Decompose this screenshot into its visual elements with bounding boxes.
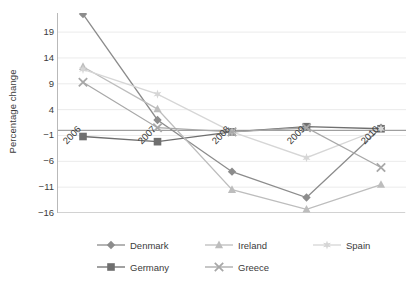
- marker-diamond: [107, 241, 115, 249]
- y-tick-label: 19: [26, 27, 54, 37]
- legend-label: Denmark: [130, 240, 169, 251]
- y-axis-title: Percentage change: [2, 0, 22, 222]
- y-axis-title-text: Percentage change: [7, 69, 18, 153]
- marker-square: [107, 263, 115, 271]
- marker-cross: [79, 78, 87, 86]
- y-tick-label: −6: [26, 156, 54, 166]
- y-tick-label: −11: [26, 182, 54, 192]
- marker-cross: [377, 163, 385, 171]
- marker-diamond: [228, 167, 236, 175]
- legend-swatch-square-icon: [96, 260, 126, 274]
- legend-marker-svg: [204, 238, 234, 252]
- legend-item-ireland[interactable]: Ireland: [204, 238, 267, 252]
- series-line: [83, 69, 381, 157]
- y-tick-label: −16: [26, 208, 54, 218]
- y-tick-label: 14: [26, 53, 54, 63]
- legend-swatch-triangle-icon: [204, 238, 234, 252]
- chart-legend: DenmarkIrelandSpainGermanyGreece: [96, 238, 396, 282]
- y-tick-label: −1: [26, 130, 54, 140]
- marker-triangle: [153, 105, 161, 113]
- legend-item-greece[interactable]: Greece: [204, 260, 269, 274]
- legend-label: Germany: [130, 262, 169, 273]
- legend-swatch-star-icon: [312, 238, 342, 252]
- legend-label: Spain: [346, 240, 370, 251]
- legend-swatch-cross-icon: [204, 260, 234, 274]
- y-tick-label: 9: [26, 79, 54, 89]
- y-axis-tick-labels: 191494−1−6−11−16: [20, 0, 54, 288]
- series-spain: [79, 65, 385, 163]
- legend-marker-svg: [96, 238, 126, 252]
- marker-diamond: [153, 116, 161, 124]
- series-ireland: [79, 62, 385, 212]
- plot-svg: [58, 13, 406, 213]
- legend-item-denmark[interactable]: Denmark: [96, 238, 169, 252]
- legend-label: Ireland: [238, 240, 267, 251]
- marker-square: [79, 133, 87, 141]
- marker-star: [154, 90, 162, 99]
- line-chart: Percentage change 191494−1−6−11−16 20062…: [0, 0, 413, 288]
- series-line: [83, 82, 381, 167]
- legend-marker-svg: [312, 238, 342, 252]
- marker-square: [154, 138, 162, 146]
- legend-marker-svg: [96, 260, 126, 274]
- legend-label: Greece: [238, 262, 269, 273]
- legend-item-spain[interactable]: Spain: [312, 238, 370, 252]
- marker-triangle: [377, 180, 385, 188]
- legend-item-germany[interactable]: Germany: [96, 260, 169, 274]
- legend-marker-svg: [204, 260, 234, 274]
- y-tick-label: 4: [26, 105, 54, 115]
- plot-area: [57, 13, 405, 213]
- legend-swatch-diamond-icon: [96, 238, 126, 252]
- series-greece: [79, 78, 385, 172]
